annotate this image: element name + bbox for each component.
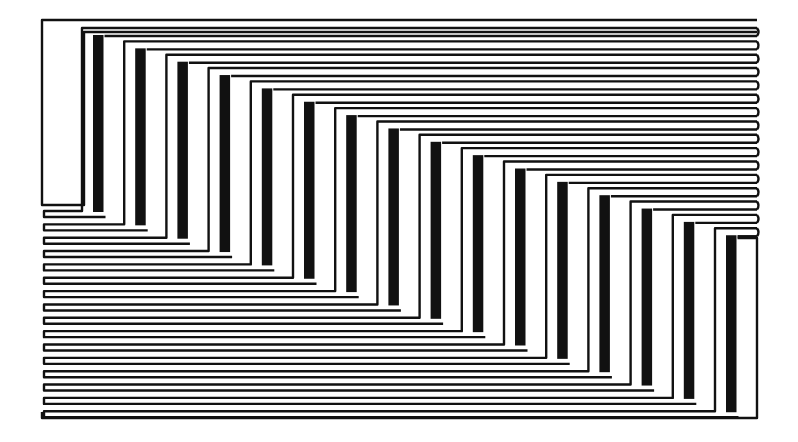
black-bar-12 bbox=[557, 182, 568, 359]
black-bar-15 bbox=[684, 222, 695, 399]
black-bar-6 bbox=[304, 102, 315, 279]
right-hairpin-6 bbox=[757, 95, 759, 103]
right-hairpin-13 bbox=[757, 188, 759, 196]
right-hairpin-3 bbox=[757, 55, 759, 63]
black-bar-2 bbox=[135, 48, 146, 225]
black-bar-5 bbox=[262, 88, 273, 265]
black-bar-7 bbox=[346, 115, 357, 292]
right-hairpin-12 bbox=[757, 175, 759, 183]
black-bar-8 bbox=[388, 128, 399, 305]
black-bar-9 bbox=[431, 142, 442, 319]
black-bar-1 bbox=[93, 35, 104, 212]
black-bar-13 bbox=[599, 195, 610, 372]
right-hairpin-8 bbox=[757, 121, 759, 129]
left-block-outline bbox=[42, 20, 757, 205]
black-bar-3 bbox=[177, 62, 188, 239]
right-hairpin-2 bbox=[757, 41, 759, 49]
right-hairpin-5 bbox=[757, 81, 759, 89]
right-hairpin-10 bbox=[757, 148, 759, 156]
op-art-canvas: Op-art staircase line pattern bbox=[0, 0, 798, 442]
right-hairpin-15 bbox=[757, 215, 759, 223]
black-bar-16 bbox=[726, 235, 737, 412]
right-hairpin-9 bbox=[757, 135, 759, 143]
right-hairpin-4 bbox=[757, 68, 759, 76]
right-hairpin-14 bbox=[757, 202, 759, 210]
right-hairpin-7 bbox=[757, 108, 759, 116]
right-hairpin-1 bbox=[757, 28, 759, 36]
right-hairpin-16 bbox=[757, 228, 759, 236]
black-bar-11 bbox=[515, 169, 526, 346]
black-bar-14 bbox=[642, 209, 653, 386]
black-bar-10 bbox=[473, 155, 484, 332]
right-hairpin-11 bbox=[757, 162, 759, 170]
black-bar-4 bbox=[220, 75, 231, 252]
staircase-line-pattern bbox=[0, 0, 798, 442]
